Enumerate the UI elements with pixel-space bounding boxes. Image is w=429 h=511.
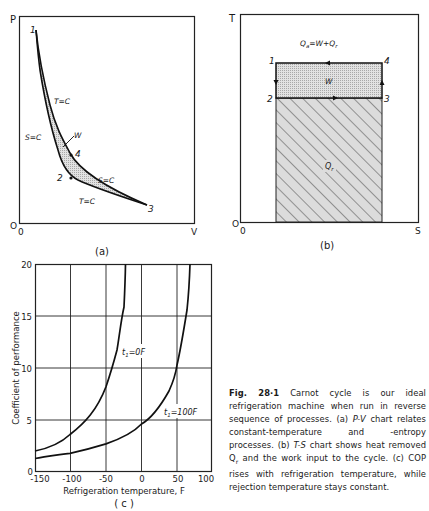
axis-label-t: T: [228, 13, 236, 24]
axis-label-p: P: [10, 14, 16, 25]
panel-b-label: (b): [320, 240, 334, 251]
series-t1-100F: [35, 264, 190, 459]
y-tick-5: 5: [27, 416, 32, 426]
work-label: W: [325, 77, 333, 86]
caption-tag-c: (c): [393, 453, 404, 463]
work-area: [36, 30, 147, 205]
origin-o: O: [10, 221, 17, 231]
panel-b-ts-diagram: T O 0 S Qa=W+Qr 1 2 3 4 W Qr (b): [228, 13, 421, 251]
heat-removed-label: Qr: [323, 160, 336, 172]
axis-label-v: V: [191, 227, 198, 237]
y-tick-15: 15: [21, 312, 32, 322]
x-tick-100: 100: [198, 474, 214, 484]
x-tick-minus50: -50: [99, 474, 113, 484]
panel-a-pv-diagram: P O 0 V 1 2 3 4 T=C S=C S=C T=C W (a): [10, 14, 198, 257]
right-isentrope-label: S=C: [98, 176, 115, 185]
origin-o: O: [232, 219, 239, 229]
y-tick-10: 10: [21, 364, 32, 374]
y-tick-20: 20: [21, 260, 32, 270]
left-isentrope-label: S=C: [25, 133, 42, 142]
x-tick-50: 50: [173, 474, 184, 484]
origin-0: 0: [240, 226, 246, 236]
panel-c-cop-chart: 20 15 10 5 0 -150 -100 -50 0 50 100 Refr…: [11, 260, 214, 509]
point-1-label: 1: [269, 56, 275, 66]
axis-label-s: S: [415, 226, 421, 236]
caption-tag-a: (a): [336, 414, 348, 424]
caption-ts: T-S: [290, 440, 306, 450]
caption-q: Q: [229, 453, 236, 463]
caption-tag-b: (b): [278, 440, 290, 450]
series-t1-0F: [35, 264, 126, 451]
point-2-label: 2: [267, 94, 273, 104]
point-4-label: 4: [384, 56, 390, 66]
x-tick-minus150: -150: [30, 474, 49, 484]
panel-a-label: (a): [95, 246, 109, 257]
caption-b-text2: and the work input to the cycle.: [238, 453, 392, 463]
point-3-label: 3: [148, 204, 154, 214]
point-2-label: 2: [57, 173, 63, 183]
panel-a-frame: [20, 17, 195, 224]
work-label: W: [74, 131, 82, 140]
panel-c-label: ( c ): [114, 498, 134, 509]
point-2-marker: [69, 176, 72, 179]
upper-isotherm-label: T=C: [54, 97, 71, 106]
y-axis-title: Coefficient of performance: [11, 311, 21, 425]
origin-0: 0: [18, 227, 24, 237]
figure-number: Fig. 28·1: [229, 388, 279, 398]
point-4-label: 4: [75, 149, 81, 159]
figure-caption: Fig. 28·1 Carnot cycle is our ideal refr…: [229, 387, 426, 494]
x-tick-minus100: -100: [62, 474, 81, 484]
caption-b-text1: chart shows heat removed: [306, 440, 426, 450]
point-3-label: 3: [384, 94, 390, 104]
lower-isotherm-label: T=C: [79, 197, 96, 206]
caption-pv: P-V: [348, 414, 366, 424]
point-1-label: 1: [30, 25, 36, 35]
x-axis-title: Refrigeration temperature, F: [63, 486, 185, 496]
energy-balance-equation: Qa=W+Qr: [300, 39, 338, 49]
point-4-marker: [69, 153, 72, 156]
x-tick-0: 0: [139, 474, 144, 484]
